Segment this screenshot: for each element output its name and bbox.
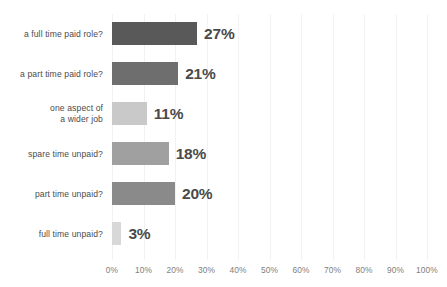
category-label: spare time unpaid? (0, 134, 103, 174)
bar-value-label: 27% (204, 22, 234, 45)
bar-row: part time unpaid?20% (112, 174, 427, 214)
category-label: a full time paid role? (0, 14, 103, 54)
bar-value-label: 11% (154, 102, 184, 125)
bar-value-label: 21% (185, 62, 215, 85)
bar (112, 102, 147, 125)
bar-row: a part time paid role?21% (112, 54, 427, 94)
x-tick-label: 60% (292, 265, 309, 275)
x-tick-label: 90% (387, 265, 404, 275)
bar (112, 142, 169, 165)
bar-value-label: 20% (182, 182, 212, 205)
x-tick-label: 30% (198, 265, 215, 275)
x-tick-label: 0% (106, 265, 118, 275)
bar-chart: a full time paid role?27%a part time pai… (0, 0, 447, 287)
category-label: a part time paid role? (0, 54, 103, 94)
bar-row: full time unpaid?3% (112, 214, 427, 254)
gridline (427, 14, 428, 260)
bar-value-label: 18% (176, 142, 206, 165)
x-axis: 0%10%20%30%40%50%60%70%80%90%100% (112, 262, 427, 282)
plot-area: a full time paid role?27%a part time pai… (112, 14, 427, 260)
category-label: part time unpaid? (0, 174, 103, 214)
x-tick-label: 40% (229, 265, 246, 275)
bar-value-label: 3% (128, 222, 150, 245)
x-tick-label: 100% (416, 265, 438, 275)
x-tick-label: 10% (135, 265, 152, 275)
bar (112, 222, 121, 245)
x-tick-label: 20% (166, 265, 183, 275)
bar (112, 62, 178, 85)
bar-row: spare time unpaid?18% (112, 134, 427, 174)
bar (112, 22, 197, 45)
bar (112, 182, 175, 205)
bar-row: a full time paid role?27% (112, 14, 427, 54)
x-tick-label: 80% (355, 265, 372, 275)
category-label: full time unpaid? (0, 214, 103, 254)
x-tick-label: 50% (261, 265, 278, 275)
bar-row: one aspect of a wider job11% (112, 94, 427, 134)
x-tick-label: 70% (324, 265, 341, 275)
category-label: one aspect of a wider job (0, 94, 103, 134)
